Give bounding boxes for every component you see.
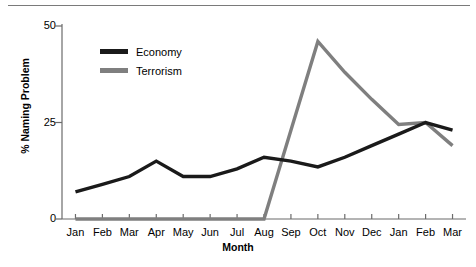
legend-label-economy: Economy <box>136 46 182 58</box>
y-axis-ticks <box>55 26 62 219</box>
x-tick-label-Mar-14: Mar <box>433 226 473 239</box>
legend-label-terrorism: Terrorism <box>136 65 182 77</box>
chart-legend: Economy Terrorism <box>100 42 220 80</box>
x-axis-tick-labels: JanFebMarAprMayJunJulAugSepOctNovDecJanF… <box>62 226 468 242</box>
line-chart-figure: % Naming Problem 50 25 0 JanFebMarAprMay… <box>0 0 476 267</box>
legend-item-terrorism: Terrorism <box>100 61 220 80</box>
legend-item-economy: Economy <box>100 42 220 61</box>
legend-swatch-economy <box>100 49 128 54</box>
x-axis-title: Month <box>0 241 476 253</box>
series-line-economy <box>75 123 452 192</box>
legend-swatch-terrorism <box>100 68 128 73</box>
